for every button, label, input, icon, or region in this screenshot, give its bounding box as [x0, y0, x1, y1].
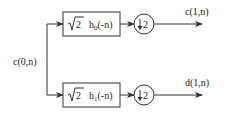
filter-gain-digit: 2: [76, 19, 81, 30]
downsample-factor-1: 2: [143, 90, 148, 101]
downsample-factor-0: 2: [143, 19, 148, 30]
filter-bank-diagram: c(0,n) 2 h0(-n) 2 c(1,n) 2 h1(-n) 2 d(1,…: [0, 0, 227, 124]
output-label-d1: d(1,n): [185, 77, 209, 89]
input-label: c(0,n): [13, 56, 37, 68]
filter-gain-digit: 2: [76, 90, 81, 101]
output-label-c1: c(1,n): [185, 6, 209, 18]
branch-highpass: 2 h1(-n) 2 d(1,n): [63, 77, 209, 107]
branch-lowpass: 2 h0(-n) 2 c(1,n): [63, 6, 209, 36]
